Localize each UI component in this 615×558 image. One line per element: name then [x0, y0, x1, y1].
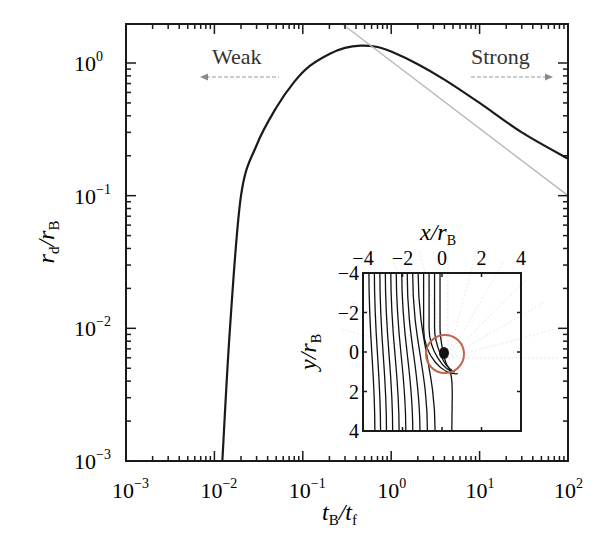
weak-arrow-icon: [200, 74, 279, 81]
inset-y-tick-label: 4: [349, 420, 359, 442]
x-tick-label: 100: [377, 476, 406, 503]
main-chart: 10−310−210−1100101102 10−310−210−1100 We…: [0, 0, 615, 558]
y-tick-labels: 10−310−210−1100: [74, 49, 111, 474]
x-tick-label: 10−1: [289, 476, 326, 503]
inset-y-tick-label: 2: [349, 381, 359, 403]
y-tick-label: 10−2: [74, 314, 111, 341]
inset-x-tick-label: 2: [477, 247, 487, 269]
y-tick-label: 10−3: [74, 447, 111, 474]
inset-streamline-plot: −4−2024−4−2024 x/rB y/rB: [295, 219, 558, 442]
inset-particle-dot: [439, 347, 449, 359]
x-axis-title: tB/tf: [322, 499, 357, 528]
x-tick-label: 101: [466, 476, 495, 503]
y-tick-label: 10−1: [74, 182, 111, 209]
inset-x-tick-label: 0: [437, 247, 447, 269]
weak-label: Weak: [212, 44, 262, 69]
x-tick-label: 102: [554, 476, 583, 503]
x-tick-label: 10−3: [112, 476, 149, 503]
y-axis-title: rd/rB: [33, 221, 62, 264]
inset-y-tick-label: −4: [338, 262, 359, 284]
strong-label: Strong: [471, 44, 530, 69]
inset-y-tick-label: −2: [338, 302, 359, 324]
inset-x-tick-label: −2: [392, 247, 413, 269]
inset-x-tick-label: 4: [516, 247, 526, 269]
inset-y-tick-label: 0: [349, 341, 359, 363]
inset-y-axis-title: y/rB: [295, 334, 324, 372]
asymptote-line: [342, 24, 568, 196]
inset-x-axis-title: x/rB: [419, 219, 456, 248]
x-tick-label: 10−2: [200, 476, 237, 503]
strong-arrow-icon: [471, 74, 553, 81]
y-tick-label: 100: [74, 49, 103, 76]
